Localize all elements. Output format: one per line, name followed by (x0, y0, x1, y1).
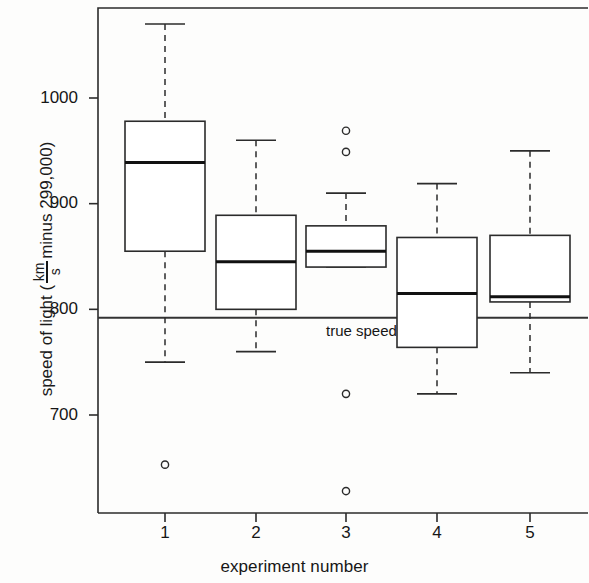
y-axis-title-fraction: km s (32, 261, 62, 283)
outlier-1-1[interactable] (161, 461, 168, 468)
box-5[interactable] (490, 235, 570, 302)
y-axis-title-prefix: speed of light ( (37, 285, 57, 397)
box-3[interactable] (306, 226, 386, 267)
y-axis-title-numerator: km (32, 262, 46, 283)
y-axis-title-denominator: s (48, 267, 62, 276)
box-1[interactable] (125, 121, 205, 251)
xtick-label-3: 3 (331, 523, 361, 543)
xtick-label-5: 5 (515, 523, 545, 543)
boxplot-figure: 1000 900 800 700 1 2 3 4 5 true speed ex… (0, 0, 589, 583)
outlier-3-2[interactable] (342, 148, 349, 155)
plot-canvas (0, 0, 589, 583)
y-axis-title: speed of light ( km s minus 299,000) (32, 142, 62, 397)
true-speed-annotation: true speed (326, 322, 397, 339)
x-axis-title: experiment number (0, 557, 589, 577)
y-axis-title-suffix: minus 299,000) (37, 142, 57, 259)
xtick-label-4: 4 (422, 523, 452, 543)
xtick-label-2: 2 (241, 523, 271, 543)
y-axis-title-wrapper: speed of light ( km s minus 299,000) (32, 59, 62, 479)
outlier-3-1[interactable] (342, 127, 349, 134)
outlier-3-4[interactable] (342, 487, 349, 494)
xtick-label-1: 1 (150, 523, 180, 543)
outlier-3-3[interactable] (342, 390, 349, 397)
